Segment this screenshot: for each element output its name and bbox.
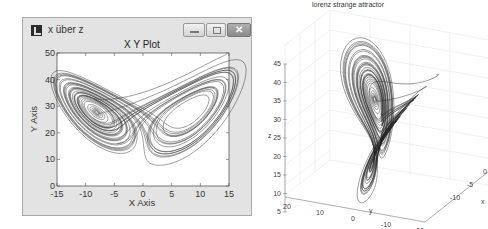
svg-text:5: 5 <box>169 189 174 199</box>
svg-text:-5: -5 <box>467 181 473 188</box>
svg-text:50: 50 <box>45 48 55 58</box>
svg-text:-5: -5 <box>110 189 118 199</box>
z-axis-label: z <box>268 132 272 139</box>
y-axis-label-3d: y <box>369 207 373 215</box>
svg-text:20: 20 <box>283 203 291 210</box>
svg-text:10: 10 <box>45 154 55 164</box>
svg-text:-10: -10 <box>450 194 460 201</box>
svg-text:45: 45 <box>273 60 281 67</box>
svg-text:30: 30 <box>45 101 55 111</box>
svg-text:-20: -20 <box>414 227 424 229</box>
svg-text:15: 15 <box>273 171 281 178</box>
svg-text:35: 35 <box>273 97 281 104</box>
svg-text:40: 40 <box>273 79 281 86</box>
x-axis-label-3d: x <box>481 198 485 205</box>
y-axis-label: Y Axis <box>28 106 39 132</box>
charts-canvas: X Y Plot -15-10-5051015 01020304050 X Ax… <box>0 0 488 229</box>
svg-text:10: 10 <box>316 209 324 216</box>
svg-text:5: 5 <box>277 208 281 215</box>
svg-text:-10: -10 <box>381 221 391 228</box>
svg-text:10: 10 <box>273 190 281 197</box>
data-series-3d <box>341 38 439 203</box>
svg-text:15: 15 <box>224 189 234 199</box>
svg-text:0: 0 <box>483 168 487 175</box>
svg-text:0: 0 <box>351 215 355 222</box>
xy-plot: X Y Plot -15-10-5051015 01020304050 X Ax… <box>28 39 246 208</box>
lorenz-3d-plot: 51015202530354045 20100-10-20 -10-50 z y… <box>268 10 488 229</box>
svg-text:0: 0 <box>50 181 55 191</box>
x-axis-label: X Axis <box>129 197 156 208</box>
y-axis-ticks-3d: 20100-10-20 <box>283 203 424 229</box>
svg-text:10: 10 <box>195 189 205 199</box>
svg-text:25: 25 <box>273 134 281 141</box>
x-axis-ticks-3d: -10-50 <box>450 168 487 201</box>
chart-title: X Y Plot <box>124 39 160 50</box>
svg-text:30: 30 <box>273 116 281 123</box>
grid-3d <box>285 10 488 195</box>
svg-text:20: 20 <box>273 153 281 160</box>
svg-text:20: 20 <box>45 128 55 138</box>
svg-text:-10: -10 <box>79 189 92 199</box>
